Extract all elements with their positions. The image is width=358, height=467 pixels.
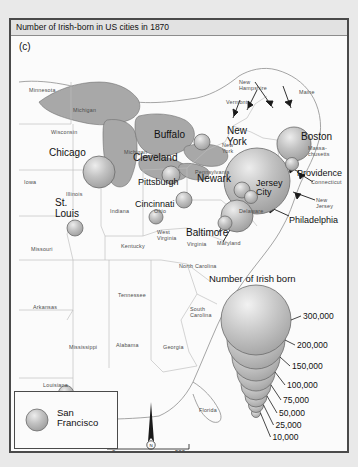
city-bubble (67, 220, 83, 236)
state-label: Wisconsin (51, 130, 77, 136)
city-label-line: New (227, 126, 247, 137)
state-label: Alabama (116, 343, 139, 349)
state-label: North Carolina (179, 264, 217, 270)
state-label-line: Florida (199, 408, 217, 414)
city-label: Baltimore (186, 228, 228, 239)
scale-unit: Miles (143, 450, 157, 453)
state-label-line: Arkansas (33, 305, 57, 311)
city-bubble (194, 134, 210, 150)
legend-value: 10,000 (273, 432, 299, 442)
city-label-line: Buffalo (154, 130, 185, 141)
state-label-line: Carolina (190, 313, 212, 319)
state-label-line: Connecticut (311, 180, 342, 186)
city-label-line: Chicago (49, 148, 86, 159)
state-label-line: Delaware (239, 209, 263, 215)
state-label: Missouri (31, 247, 53, 253)
state-label-line: Louisiana (43, 383, 68, 389)
san-francisco-inset: San Francisco (14, 391, 118, 449)
state-label-line: Alabama (116, 343, 139, 349)
city-label: Philadelphia (289, 216, 338, 225)
city-label: Buffalo (154, 130, 185, 141)
scale-bar: 0 Miles 500 (112, 449, 194, 453)
city-label-line: City (256, 188, 283, 197)
state-label: Massa-chusetts (308, 146, 330, 157)
state-label: Georgia (163, 345, 184, 351)
inset-city-line2: Francisco (57, 418, 98, 428)
state-label: Pennsylvania (195, 170, 229, 176)
city-label-line: Baltimore (186, 228, 228, 239)
state-label: Vermont (226, 100, 247, 106)
legend-value: 75,000 (283, 395, 309, 405)
state-label-line: Wisconsin (51, 130, 77, 136)
state-label-line: Tennessee (118, 293, 146, 299)
state-label-line: Pennsylvania (195, 170, 229, 176)
legend-value: 50,000 (279, 408, 305, 418)
city-label-line: Philadelphia (289, 216, 338, 225)
state-label-line: North Carolina (179, 264, 217, 270)
city-bubble (176, 192, 192, 208)
city-label-line: Boston (301, 132, 332, 143)
city-label-line: Providence (297, 169, 342, 178)
state-label-line: Virginia (187, 242, 206, 248)
state-label: WestVirginia (157, 230, 176, 241)
legend-value: 150,000 (292, 361, 323, 371)
state-label-line: Georgia (163, 345, 184, 351)
state-label-line: Hampshire (239, 86, 267, 92)
state-label: Tennessee (118, 293, 146, 299)
scale-max: 500 (175, 449, 185, 453)
state-label: Delaware (239, 209, 263, 215)
state-label-line: Ohio (154, 209, 166, 215)
city-label-line: Louis (55, 209, 79, 220)
city-label: St.Louis (55, 198, 79, 219)
city-label-line: St. (55, 198, 79, 209)
state-label: Virginia (187, 242, 206, 248)
state-label: Mississippi (69, 345, 97, 351)
city-label: Chicago (49, 148, 86, 159)
figure-title: Number of Irish-born in US cities in 187… (16, 22, 169, 32)
city-label: Providence (297, 169, 342, 178)
state-label: Louisiana (43, 383, 68, 389)
city-label: Pittsburgh (138, 178, 179, 187)
state-label: Kentucky (121, 244, 145, 250)
legend-value: 100,000 (287, 380, 318, 390)
state-label: NewYork (222, 143, 233, 154)
state-label-line: Kentucky (121, 244, 145, 250)
state-label: SouthCarolina (190, 307, 212, 318)
state-label-line: Jersey (316, 204, 333, 210)
state-label-line: Maine (299, 90, 315, 96)
state-label: Michigan (124, 150, 147, 156)
map-figure: N Number of Irish-born in US cities in 1… (9, 18, 349, 453)
state-label: Indiana (110, 209, 129, 215)
state-label-line: Indiana (110, 209, 129, 215)
city-label-line: Pittsburgh (138, 178, 179, 187)
state-label-line: Michigan (73, 108, 96, 114)
state-label: Iowa (24, 180, 36, 186)
state-label: Maine (299, 90, 315, 96)
panel-label: (c) (19, 41, 31, 52)
state-label-line: Missouri (31, 247, 53, 253)
state-label-line: York (222, 149, 233, 155)
scale-min: 0 (112, 449, 115, 453)
state-label-line: Mississippi (69, 345, 97, 351)
state-label: Ohio (154, 209, 166, 215)
legend-value: 25,000 (276, 420, 302, 430)
state-label-line: Minnesota (29, 88, 56, 94)
state-label-line: Iowa (24, 180, 36, 186)
city-bubble (83, 156, 115, 188)
state-label-line: Virginia (157, 236, 176, 242)
state-label: NewJersey (316, 198, 333, 209)
state-label: Michigan (73, 108, 96, 114)
state-label: NewHampshire (239, 80, 267, 91)
state-label-line: Michigan (124, 150, 147, 156)
state-label-line: chusetts (308, 152, 330, 158)
state-label: Arkansas (33, 305, 57, 311)
state-label-line: Vermont (226, 100, 247, 106)
state-label-line: Illinois (66, 192, 83, 198)
state-label-line: Maryland (217, 241, 241, 247)
legend-value: 300,000 (303, 311, 334, 321)
city-label: JerseyCity (256, 179, 283, 198)
legend-value: 200,000 (297, 340, 328, 350)
legend-title: Number of Irish born (209, 273, 296, 284)
legend-bubble (221, 285, 291, 355)
city-label: Boston (301, 132, 332, 143)
